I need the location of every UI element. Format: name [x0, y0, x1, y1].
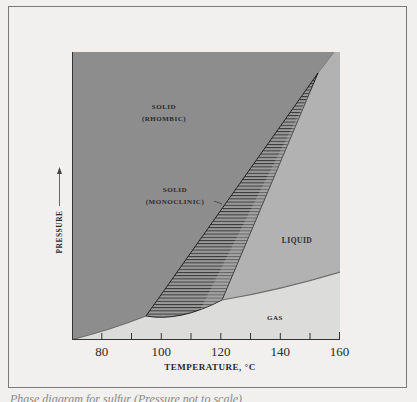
- x-tick-100: 100: [152, 344, 172, 359]
- y-axis-label: PRESSURE: [55, 210, 64, 253]
- monoclinic-label-1: SOLID: [163, 186, 187, 194]
- liquid-label: LIQUID: [282, 236, 313, 245]
- x-axis-label: TEMPERATURE, °C: [164, 362, 255, 372]
- gas-label: GAS: [267, 314, 283, 322]
- x-tick-80: 80: [95, 344, 108, 359]
- monoclinic-label-2: (MONOCLINIC): [146, 198, 205, 206]
- rhombic-label-2: (RHOMBIC): [142, 115, 186, 123]
- x-tick-160: 160: [330, 344, 350, 359]
- x-tick-120: 120: [211, 344, 231, 359]
- pressure-arrow-icon: [57, 167, 62, 206]
- phase-diagram: 80 100 120 140 160 TEMPERATURE, °C PRESS…: [0, 0, 417, 402]
- x-tick-140: 140: [271, 344, 291, 359]
- figure-caption: Phase diagram for sulfur (Pressure not t…: [10, 388, 242, 402]
- rhombic-label-1: SOLID: [152, 103, 176, 111]
